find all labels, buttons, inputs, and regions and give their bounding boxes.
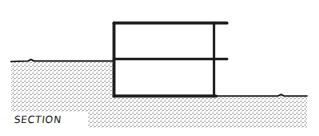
upper-grade-line — [11, 60, 114, 62]
building-section — [114, 23, 227, 96]
lower-grade-line — [214, 95, 307, 97]
section-label: SECTION — [13, 114, 62, 125]
